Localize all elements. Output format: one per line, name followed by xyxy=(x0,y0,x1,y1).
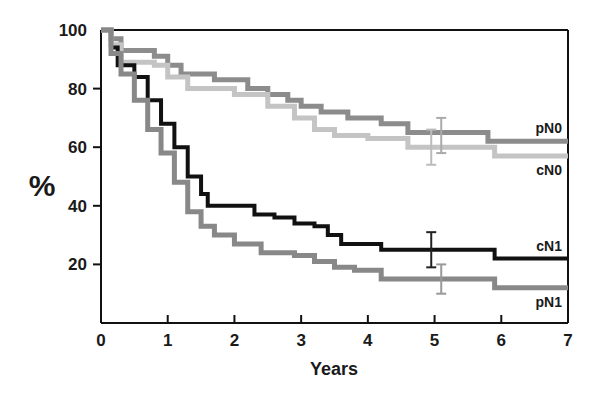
x-axis-ticks: 01234567 xyxy=(96,315,572,350)
y-axis-ticks: 20406080100 xyxy=(59,21,101,274)
x-tick-label: 2 xyxy=(230,331,239,350)
curve-pn1 xyxy=(101,30,568,288)
survival-chart: 01234567 20406080100 pN0cN0cN1pN1 Years … xyxy=(0,0,595,397)
y-axis-title: % xyxy=(29,169,56,202)
series-label-cn1: cN1 xyxy=(536,238,562,254)
y-tick-label: 20 xyxy=(68,255,87,274)
series-labels: pN0cN0cN1pN1 xyxy=(536,120,563,310)
series-label-pn1: pN1 xyxy=(536,294,563,310)
x-tick-label: 7 xyxy=(563,331,572,350)
x-tick-label: 1 xyxy=(163,331,172,350)
x-tick-label: 5 xyxy=(430,331,439,350)
x-tick-label: 0 xyxy=(96,331,105,350)
y-tick-label: 100 xyxy=(59,21,87,40)
series-label-pn0: pN0 xyxy=(536,120,563,136)
y-tick-label: 60 xyxy=(68,138,87,157)
x-axis-title: Years xyxy=(310,359,358,379)
y-tick-label: 40 xyxy=(68,197,87,216)
x-tick-label: 4 xyxy=(363,331,373,350)
x-tick-label: 3 xyxy=(296,331,305,350)
survival-curves xyxy=(101,30,568,288)
error-bars xyxy=(426,118,446,294)
curve-cn0 xyxy=(101,30,568,156)
chart-axes xyxy=(101,30,568,323)
y-tick-label: 80 xyxy=(68,80,87,99)
x-tick-label: 6 xyxy=(497,331,506,350)
series-label-cn0: cN0 xyxy=(536,162,562,178)
